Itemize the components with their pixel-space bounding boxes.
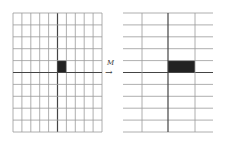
- transform-label: M: [107, 59, 114, 67]
- arrow-icon: →: [105, 67, 113, 77]
- right-filled-cell: [168, 61, 195, 73]
- left-filled-cell: [58, 61, 67, 73]
